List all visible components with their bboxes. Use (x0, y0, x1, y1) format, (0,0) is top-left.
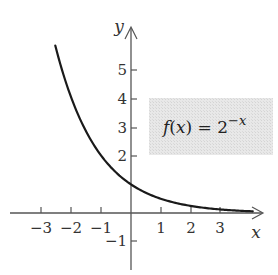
x-tick-label: −2 (60, 219, 82, 237)
x-tick-label: 3 (215, 219, 225, 237)
y-tick-label: 5 (117, 61, 127, 79)
x-tick-label: 1 (156, 219, 166, 237)
y-axis: 5 4 3 2 −1 y (105, 16, 137, 270)
y-tick-label: −1 (105, 232, 127, 250)
y-tick-label: 3 (117, 119, 127, 137)
x-axis: −3 −2 −1 1 2 3 x (10, 207, 263, 242)
y-axis-label: y (113, 16, 124, 36)
function-graph: f(x) = 2−x −3 −2 −1 1 2 3 x 5 (0, 0, 278, 275)
x-axis-label: x (251, 222, 261, 242)
x-tick-label: 2 (186, 219, 196, 237)
y-tick-label: 2 (117, 147, 127, 165)
x-tick-label: −3 (30, 219, 52, 237)
y-tick-label: 4 (117, 90, 127, 108)
